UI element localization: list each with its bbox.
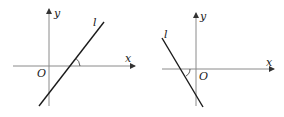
right-line-label: l	[164, 28, 168, 41]
right-graph: y x O l	[162, 10, 274, 107]
right-x-label: x	[266, 56, 273, 69]
right-angle-arc	[186, 69, 190, 76]
left-angle-arc	[76, 58, 81, 66]
diagram-canvas: y x O l y x O l	[0, 0, 284, 117]
right-y-label: y	[199, 10, 207, 23]
left-line-label: l	[93, 16, 97, 29]
left-y-label: y	[53, 7, 61, 20]
right-origin-label: O	[199, 70, 208, 83]
left-graph: y x O l	[13, 7, 135, 106]
left-x-label: x	[125, 52, 132, 65]
left-origin-label: O	[37, 67, 46, 80]
right-line-l	[162, 38, 203, 107]
